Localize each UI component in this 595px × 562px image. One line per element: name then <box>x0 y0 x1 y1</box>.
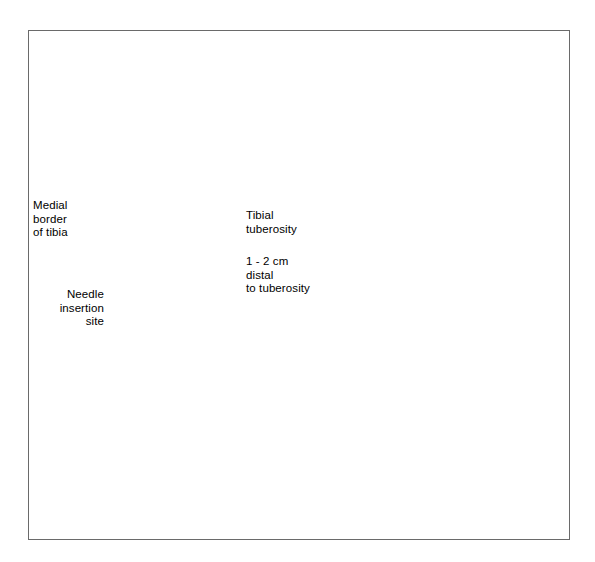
label-distance-distal-to-tuberosity: 1 - 2 cm distal to tuberosity <box>246 255 310 296</box>
label-needle-insertion-site: Needle insertion site <box>0 288 104 329</box>
label-medial-border-of-tibia: Medial border of tibia <box>33 199 68 240</box>
label-tibial-tuberosity: Tibial tuberosity <box>246 209 297 236</box>
